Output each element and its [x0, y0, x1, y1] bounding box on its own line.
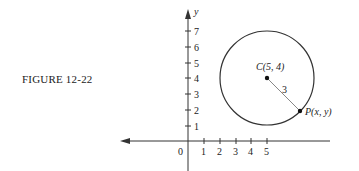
coordinate-diagram: y 0 1 2 3 4 5 1 2 3 4 5 6 7 C(5, 4) 3 P(…: [0, 0, 359, 171]
y-axis-label: y: [193, 6, 199, 17]
y-axis-up-arrow-icon: [185, 9, 191, 19]
x-tick-label: 4: [248, 146, 253, 157]
point-p: [298, 109, 302, 113]
y-tick-label: 5: [194, 58, 199, 69]
radius-label: 3: [282, 84, 287, 95]
y-tick-label: 2: [194, 105, 199, 116]
x-tick-label: 3: [233, 146, 238, 157]
x-tick-label: 2: [217, 146, 222, 157]
y-tick-label: 4: [194, 73, 199, 84]
center-label: C(5, 4): [256, 61, 285, 73]
y-tick-label: 1: [194, 121, 199, 132]
x-tick-label: 1: [201, 146, 206, 157]
point-label: P(x, y): [304, 106, 332, 118]
x-axis-left-arrow-icon: [120, 138, 130, 144]
y-tick-label: 7: [194, 26, 199, 37]
y-tick-label: 3: [194, 89, 199, 100]
origin-label: 0: [178, 146, 183, 157]
x-axis: [120, 138, 330, 144]
y-tick-label: 6: [194, 42, 199, 53]
y-axis: [185, 9, 191, 171]
center-point: [265, 76, 269, 80]
x-tick-label: 5: [264, 146, 269, 157]
